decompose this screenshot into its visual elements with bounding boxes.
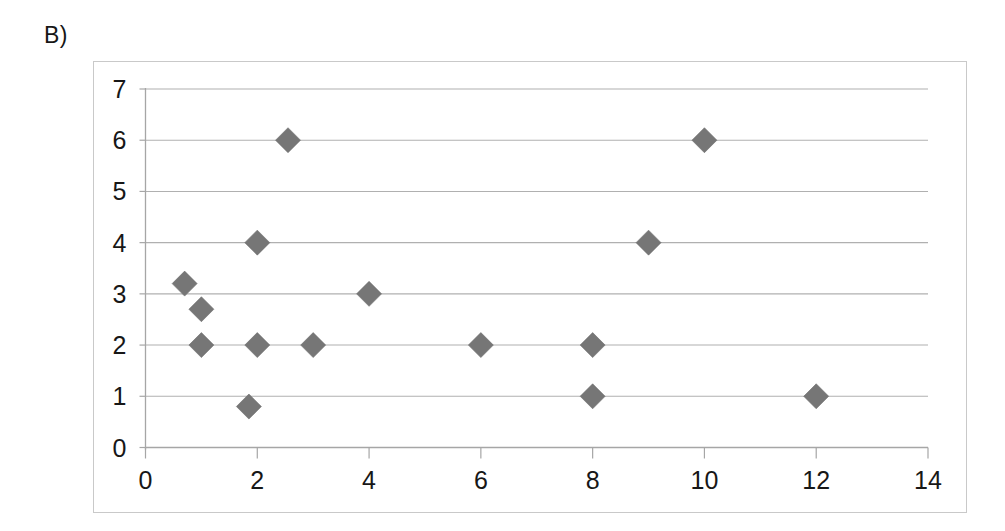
chart-frame	[93, 61, 967, 513]
panel-label: B)	[44, 22, 68, 49]
